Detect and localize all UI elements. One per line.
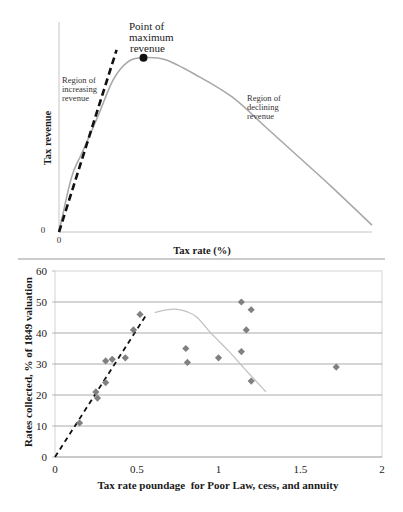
top-y-tick-label: 0 [41,225,46,235]
y-tick-label: 0 [42,451,48,463]
x-tick-labels: 00.511.52 [52,463,385,475]
rates-scatter-chart: 0102030405060 00.511.52 Rates collected,… [22,265,385,491]
laffer-curve-chart: 0 0 Tax revenue Tax rate (%) Point of ma… [41,20,372,257]
y-tick-label: 10 [36,420,48,432]
scatter-point [76,419,83,426]
y-tick-labels: 0102030405060 [36,265,48,463]
y-tick-label: 30 [36,358,48,370]
x-tick-label: 1 [216,463,222,475]
bottom-y-axis-title: Rates collected, % of 1849 valuation [22,277,34,447]
scatter-point [102,357,109,364]
top-x-tick-label: 0 [57,235,62,245]
top-x-axis-title: Tax rate (%) [173,245,231,257]
scatter-point [102,379,109,386]
scatter-point [243,326,250,333]
top-y-axis-title: Tax revenue [42,110,53,165]
annotation-line: revenue [247,111,274,121]
y-tick-label: 40 [36,327,48,339]
bottom-x-axis-title: Tax rate poundage for Poor Law, cess, an… [98,479,339,491]
x-tick-label: 1.5 [293,463,307,475]
top-chart-marks [59,50,372,232]
bottom-chart-marks [55,298,340,457]
scatter-point [109,356,116,363]
scatter-point [238,348,245,355]
scatter-point [184,359,191,366]
scatter-point [182,345,189,352]
linear-trend-dashed-line [55,314,147,457]
scatter-point [136,311,143,318]
y-tick-label: 60 [36,265,48,277]
scatter-point [122,354,129,361]
x-tick-label: 0.5 [130,463,144,475]
annotation-increasing-revenue: Region of increasing revenue [62,75,98,103]
annotation-line: revenue [62,93,89,103]
max-revenue-point [140,54,148,62]
scatter-point [248,306,255,313]
y-tick-label: 50 [36,296,48,308]
gridlines [52,271,382,457]
scatter-point [92,388,99,395]
annotation-declining-revenue: Region of declining revenue [247,93,281,121]
annotation-max-revenue: Point of maximum revenue [129,20,174,54]
scatter-point [238,298,245,305]
x-tick-label: 0 [52,463,58,475]
y-tick-label: 20 [36,389,48,401]
scatter-point [215,354,222,361]
figure: 0 0 Tax revenue Tax rate (%) Point of ma… [0,0,403,512]
x-tick-label: 2 [379,463,385,475]
scatter-point [333,364,340,371]
annotation-line: revenue [130,42,165,54]
